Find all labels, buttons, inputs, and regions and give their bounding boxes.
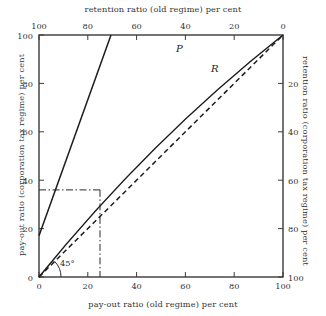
right-tick-label: 60: [288, 176, 312, 186]
series-label-P: P: [176, 43, 183, 54]
right-axis-ticks: [278, 83, 283, 277]
right-tick-label: 80: [288, 224, 312, 234]
series-label-R: R: [211, 63, 219, 74]
top-axis-title: retention ratio (old regime) per cent: [0, 4, 326, 14]
top-tick-label: 20: [222, 21, 246, 31]
line-45-degree-reference: [39, 35, 283, 277]
bottom-tick-label: 80: [222, 281, 246, 291]
left-tick-label: 20: [9, 224, 33, 234]
top-axis-ticks: [39, 35, 283, 40]
top-tick-label: 40: [173, 21, 197, 31]
bottom-tick-label: 20: [76, 281, 100, 291]
right-tick-label: 100: [288, 273, 312, 283]
left-tick-label: 40: [9, 176, 33, 186]
top-tick-label: 100: [27, 21, 51, 31]
top-tick-label: 0: [271, 21, 295, 31]
left-tick-label: 60: [9, 127, 33, 137]
plot-area: [0, 0, 326, 316]
bottom-tick-label: 40: [125, 281, 149, 291]
bottom-tick-label: 100: [271, 281, 295, 291]
top-tick-label: 60: [125, 21, 149, 31]
right-tick-label: 40: [288, 127, 312, 137]
left-tick-label: 100: [9, 31, 33, 41]
left-tick-label: 0: [9, 273, 33, 283]
left-tick-label: 80: [9, 79, 33, 89]
chart-figure: retention ratio (old regime) per cent pa…: [0, 0, 326, 316]
bottom-axis-ticks: [39, 272, 283, 277]
right-tick-label: 20: [288, 79, 312, 89]
left-axis-ticks: [39, 35, 44, 277]
bottom-tick-label: 0: [27, 281, 51, 291]
bottom-axis-title: pay-out ratio (old regime) per cent: [0, 299, 326, 309]
angle-45-label: 45°: [60, 258, 75, 268]
bottom-tick-label: 60: [173, 281, 197, 291]
top-tick-label: 80: [76, 21, 100, 31]
